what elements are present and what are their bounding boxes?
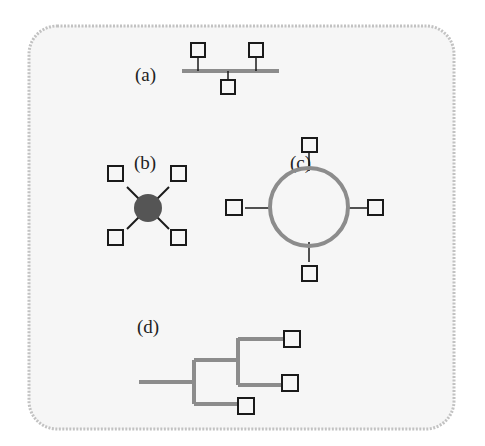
- network-topologies-diagram: (a) (b) (c) (d): [0, 0, 485, 446]
- figure-frame: [29, 26, 454, 429]
- panel-b-label: (b): [134, 152, 156, 174]
- panel-d-label: (d): [137, 316, 159, 338]
- panel-a-label: (a): [135, 64, 156, 86]
- hub-circle-icon: [134, 194, 162, 222]
